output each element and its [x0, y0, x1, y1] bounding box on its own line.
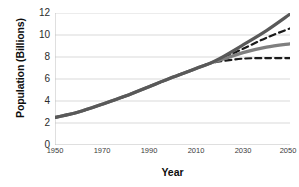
- x-tick-2010: 2010: [188, 146, 205, 155]
- series-line-medium-variant-solid: [55, 44, 290, 118]
- y-axis-tick-labels: 12 10 8 6 4 2 0: [26, 0, 50, 187]
- x-axis-title: Year: [55, 166, 290, 178]
- x-tick-2050: 2050: [280, 146, 297, 155]
- y-tick-10: 10: [26, 30, 50, 40]
- data-series-group: [55, 14, 290, 117]
- y-axis-title: Population (Billions): [14, 0, 26, 138]
- y-tick-2: 2: [26, 118, 50, 128]
- plot-area: [55, 13, 290, 145]
- y-tick-8: 8: [26, 52, 50, 62]
- y-tick-4: 4: [26, 96, 50, 106]
- y-tick-6: 6: [26, 74, 50, 84]
- y-tick-12: 12: [26, 8, 50, 18]
- x-axis-tick-labels: 1950 1970 1990 2010 2030 2050: [55, 146, 290, 160]
- x-tick-2030: 2030: [235, 146, 252, 155]
- x-tick-1990: 1990: [141, 146, 158, 155]
- series-line-high-variant-solid: [55, 14, 290, 117]
- series-line-high-variant-dashed: [55, 28, 290, 117]
- plot-svg: [55, 13, 290, 145]
- x-tick-1970: 1970: [94, 146, 111, 155]
- population-projection-chart: Population (Billions) 12 10 8 6 4 2 0 19…: [0, 0, 299, 187]
- gridlines: [55, 13, 290, 123]
- x-tick-1950: 1950: [47, 146, 64, 155]
